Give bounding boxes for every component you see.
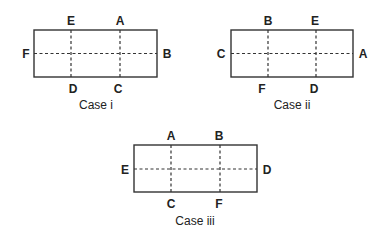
case-iii: A B C F E D Case iii [121, 129, 272, 228]
case-ii-caption: Case ii [274, 98, 311, 112]
case-i-label-left: F [22, 47, 29, 61]
case-i-caption: Case i [79, 98, 113, 112]
case-ii-label-bottom-left: F [258, 82, 265, 96]
case-ii-label-bottom-right: D [310, 82, 319, 96]
case-ii-label-right: A [359, 47, 368, 61]
case-iii-label-left: E [121, 163, 129, 177]
case-iii-label-bottom-right: F [215, 197, 222, 211]
case-ii-label-left: C [217, 47, 226, 61]
case-i-label-bottom-right: C [114, 82, 123, 96]
case-i: E A D C F B Case i [22, 14, 171, 112]
case-iii-label-bottom-left: C [167, 197, 176, 211]
case-iii-caption: Case iii [175, 214, 214, 228]
case-i-label-top-right: A [116, 14, 125, 28]
case-iii-label-right: D [263, 163, 272, 177]
case-iii-label-top-left: A [167, 129, 176, 143]
case-iii-label-top-right: B [215, 129, 224, 143]
case-ii-label-top-left: B [264, 14, 273, 28]
case-i-label-top-left: E [67, 14, 75, 28]
folding-cases-diagram: E A D C F B Case i B E F D C A Case ii A… [0, 0, 383, 241]
case-ii-label-top-right: E [311, 14, 319, 28]
case-i-label-right: B [163, 47, 172, 61]
case-i-label-bottom-left: D [69, 82, 78, 96]
case-ii: B E F D C A Case ii [217, 14, 368, 112]
